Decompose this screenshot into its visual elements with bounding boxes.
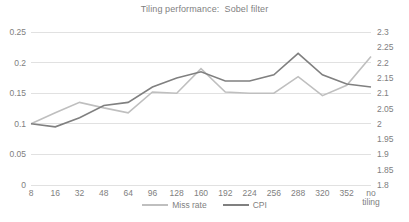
x-axis-tick: 320: [315, 188, 329, 198]
legend-item-cpi[interactable]: CPI: [223, 200, 267, 210]
right-axis-tick: 2: [377, 119, 382, 129]
x-axis-tick: 48: [99, 188, 109, 198]
right-axis-tick: 1.9: [377, 149, 389, 159]
x-axis-tick: 224: [242, 188, 256, 198]
right-axis-tick: 2.15: [377, 73, 394, 83]
left-axis-tick: 0.25: [9, 27, 26, 37]
series-line-cpi: [31, 53, 371, 126]
x-axis-tick: 32: [75, 188, 85, 198]
legend-label: CPI: [253, 200, 267, 210]
left-axis-tick-labels: 00.050.10.150.20.25: [9, 27, 26, 190]
legend-label: Miss rate: [172, 200, 206, 210]
x-axis-tick: 352: [340, 188, 354, 198]
legend-swatch-icon: [223, 204, 249, 206]
x-axis-tick: 96: [148, 188, 158, 198]
x-axis-tick: 256: [267, 188, 281, 198]
legend-swatch-icon: [142, 204, 168, 206]
legend-item-miss-rate[interactable]: Miss rate: [142, 200, 206, 210]
data-series: [31, 53, 371, 126]
series-line-miss-rate: [31, 56, 371, 123]
left-axis-tick: 0.15: [9, 88, 26, 98]
right-axis-tick: 2.1: [377, 88, 389, 98]
right-axis-tick: 1.85: [377, 165, 394, 175]
x-axis-tick: 16: [51, 188, 61, 198]
x-axis-tick: 8: [29, 188, 34, 198]
x-axis-tick: 128: [170, 188, 184, 198]
right-axis-tick: 1.95: [377, 134, 394, 144]
x-axis-tick: 288: [291, 188, 305, 198]
left-axis-tick: 0: [21, 180, 26, 190]
right-axis-tick: 2.05: [377, 104, 394, 114]
right-axis-tick-labels: 1.81.851.91.9522.052.12.152.22.252.3: [377, 27, 394, 190]
right-axis-tick: 2.3: [377, 27, 389, 37]
x-axis-tick: 64: [123, 188, 133, 198]
x-axis-tick: 160: [194, 188, 208, 198]
right-axis-tick: 2.2: [377, 58, 389, 68]
chart-legend: Miss rateCPI: [0, 200, 409, 210]
left-axis-tick: 0.2: [14, 58, 26, 68]
left-axis-tick: 0.05: [9, 149, 26, 159]
right-axis-tick: 1.8: [377, 180, 389, 190]
right-axis-tick: 2.25: [377, 42, 394, 52]
left-axis-tick: 0.1: [14, 119, 26, 129]
chart-plot-area: 00.050.10.150.20.25 1.81.851.91.9522.052…: [0, 0, 409, 222]
gridlines: [31, 32, 371, 185]
x-axis-tick: 192: [218, 188, 232, 198]
chart-container: Tiling performance: Sobel filter 00.050.…: [0, 0, 409, 222]
